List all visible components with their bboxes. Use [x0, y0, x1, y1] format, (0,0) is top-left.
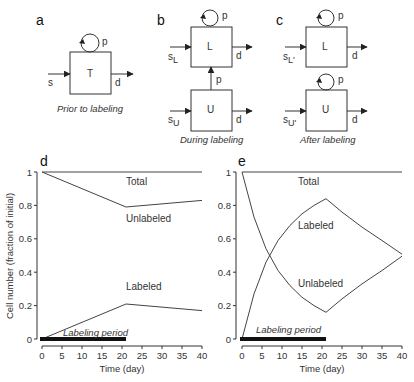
x-axis-label: Time (day)	[299, 363, 344, 374]
caption-c: After labeling	[299, 134, 356, 145]
box-label-u: U	[207, 104, 214, 115]
diagram-c: c L p sL' d U p sU' d After labeling	[276, 10, 367, 145]
diagram-a: a T p s d Prior to labeling	[36, 12, 133, 114]
label-labeled: Labeled	[298, 220, 334, 231]
svg-text:0.2: 0.2	[218, 300, 231, 311]
svg-text:40: 40	[197, 350, 208, 361]
source-label-l: sL	[168, 51, 178, 65]
svg-text:0.4: 0.4	[218, 267, 231, 278]
box-label-t: T	[87, 68, 93, 79]
labeling-period-label: Labeling period	[256, 324, 322, 335]
label-labeled: Labeled	[126, 281, 162, 292]
series-unlabeled	[42, 172, 202, 207]
svg-text:35: 35	[177, 350, 188, 361]
label-unlabeled: Unlabeled	[298, 278, 343, 289]
svg-text:15: 15	[97, 350, 108, 361]
loop-label: p	[338, 74, 344, 85]
svg-text:0.8: 0.8	[218, 200, 231, 211]
chart-d: d 1 0.8 0.6 0.4 0.2 0 Cell number (fract…	[4, 153, 207, 374]
death-label: d	[352, 114, 358, 125]
svg-text:5: 5	[259, 350, 264, 361]
caption-b: During labeling	[180, 134, 244, 145]
panel-label-d: d	[40, 153, 48, 169]
label-total: Total	[298, 176, 319, 187]
svg-text:0.4: 0.4	[19, 267, 32, 278]
svg-text:1: 1	[27, 167, 32, 178]
y-tick-labels: 1 0.8 0.6 0.4 0.2 0	[218, 167, 231, 345]
svg-text:20: 20	[317, 350, 328, 361]
panel-label-b: b	[157, 12, 165, 28]
diagram-b: b L p sL d p U sU d During labeling	[157, 10, 252, 145]
svg-text:0.6: 0.6	[19, 233, 32, 244]
y-tick-labels: 1 0.8 0.6 0.4 0.2 0	[19, 167, 32, 345]
loop-label: p	[102, 36, 108, 47]
source-label-u: sU	[168, 114, 180, 128]
figure: a T p s d Prior to labeling b L p sL d p…	[0, 0, 414, 382]
source-label-l: sL'	[283, 51, 295, 65]
x-tick-labels: 0 5 10 15 20 25 30 35 40	[39, 350, 207, 361]
label-unlabeled: Unlabeled	[126, 213, 171, 224]
source-label-u: sU'	[283, 114, 296, 128]
series-unlabeled	[242, 172, 402, 312]
svg-text:10: 10	[77, 350, 88, 361]
transfer-label: p	[216, 74, 222, 85]
death-label: d	[236, 50, 242, 61]
svg-text:5: 5	[59, 350, 64, 361]
svg-text:20: 20	[117, 350, 128, 361]
svg-text:30: 30	[357, 350, 368, 361]
svg-text:0.2: 0.2	[19, 300, 32, 311]
svg-text:0.6: 0.6	[218, 233, 231, 244]
box-label-l: L	[322, 41, 328, 52]
chart-e: e 1 0.8 0.6 0.4 0.2 0 0 5 10 15 2	[218, 153, 408, 374]
svg-text:0: 0	[239, 350, 244, 361]
panel-label-a: a	[36, 12, 44, 28]
label-total: Total	[126, 176, 147, 187]
svg-text:40: 40	[397, 350, 408, 361]
svg-text:35: 35	[377, 350, 388, 361]
caption-a: Prior to labeling	[57, 103, 124, 114]
y-axis-label: Cell number (fraction of initial)	[4, 193, 15, 319]
svg-text:10: 10	[277, 350, 288, 361]
death-label: d	[115, 77, 121, 88]
box-label-u: U	[322, 104, 329, 115]
svg-text:0: 0	[39, 350, 44, 361]
x-tick-labels: 0 5 10 15 20 25 30 35 40	[239, 350, 407, 361]
death-label: d	[236, 114, 242, 125]
svg-text:0: 0	[226, 334, 231, 345]
svg-text:15: 15	[297, 350, 308, 361]
death-label: d	[352, 50, 358, 61]
loop-label: p	[222, 10, 228, 21]
x-axis-label: Time (day)	[99, 363, 144, 374]
svg-text:25: 25	[137, 350, 148, 361]
loop-label: p	[338, 10, 344, 21]
svg-text:30: 30	[157, 350, 168, 361]
box-label-l: L	[207, 41, 213, 52]
svg-text:0.8: 0.8	[19, 200, 32, 211]
svg-text:0: 0	[27, 334, 32, 345]
svg-text:25: 25	[337, 350, 348, 361]
svg-text:1: 1	[226, 167, 231, 178]
source-label: s	[48, 77, 53, 88]
panel-label-e: e	[238, 153, 246, 169]
labeling-period-label: Labeling period	[63, 327, 129, 338]
panel-label-c: c	[276, 12, 283, 28]
